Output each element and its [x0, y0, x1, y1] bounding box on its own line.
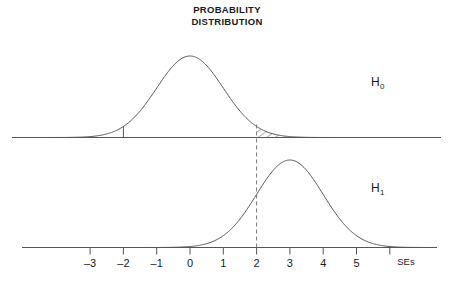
- h0-label-base: H: [371, 75, 380, 89]
- h0-panel: H 0: [12, 56, 441, 138]
- h1-label-subscript: 1: [380, 188, 385, 197]
- x-axis-tick-label: –1: [151, 257, 163, 269]
- x-axis-tick-label: 4: [320, 257, 326, 269]
- x-axis-tick-label: 0: [187, 257, 193, 269]
- probability-distribution-figure: PROBABILITY DISTRIBUTION H 0 H 1: [0, 0, 455, 287]
- h1-normal-curve: [30, 160, 436, 247]
- x-axis-tick-label: 1: [220, 257, 226, 269]
- h0-normal-curve: [30, 56, 436, 138]
- x-axis-tick-label: 3: [287, 257, 293, 269]
- x-axis-tick-labels: –3–2–1012345: [84, 257, 360, 269]
- h0-label: H 0: [371, 75, 385, 91]
- h1-label-base: H: [371, 181, 380, 195]
- chart-title: PROBABILITY DISTRIBUTION: [191, 4, 262, 27]
- title-line-1: PROBABILITY: [193, 4, 261, 15]
- x-axis-tick-label: 2: [254, 257, 260, 269]
- axis-unit-label: SEs: [397, 256, 415, 267]
- h1-panel: H 1: [22, 160, 437, 247]
- h0-label-subscript: 0: [380, 82, 385, 91]
- x-axis-tick-label: –2: [117, 257, 129, 269]
- x-axis-ticks: [90, 248, 390, 255]
- h1-label: H 1: [371, 181, 385, 197]
- x-axis-tick-label: 5: [353, 257, 359, 269]
- x-axis-tick-label: –3: [84, 257, 96, 269]
- title-line-2: DISTRIBUTION: [191, 16, 262, 27]
- rejection-region-hatched: [257, 126, 344, 137]
